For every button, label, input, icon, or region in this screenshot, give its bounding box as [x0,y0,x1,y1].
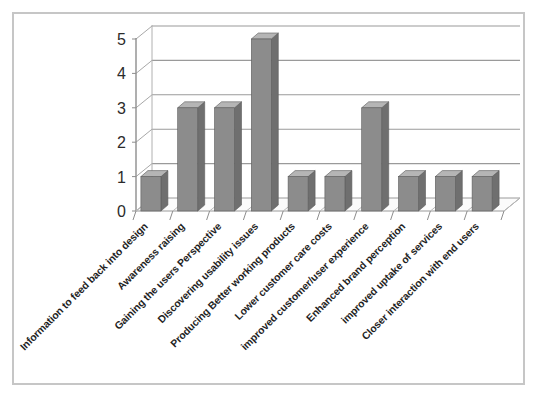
bar-column [288,171,315,211]
bar-column [178,102,205,211]
x-axis-category-label: Awareness raising [115,221,186,292]
bar-column [362,102,389,211]
bars-group [141,33,499,211]
chart-border-frame: 012345 Information to feed back into des… [12,12,525,385]
bar-column [251,33,278,211]
category-labels-group: Information to feed back into designAwar… [18,220,481,352]
bar-column [399,171,426,211]
y-axis-tick-label: 0 [117,203,126,220]
y-axis-tick-label: 4 [117,65,126,82]
bar-chart-plot: 012345 Information to feed back into des… [14,14,523,383]
y-tick-labels-group: 012345 [117,31,126,220]
bar-column [325,171,352,211]
y-axis-tick-label: 2 [117,134,126,151]
x-axis-category-label: improved customer/user experience [239,220,371,352]
y-axis-tick-label: 3 [117,100,126,117]
bar-column [472,171,499,211]
y-axis-tick-label: 5 [117,31,126,48]
chart-figure: 012345 Information to feed back into des… [0,0,538,400]
bar-column [215,102,242,211]
bar-column [435,171,462,211]
bar-column [141,171,168,211]
y-axis-tick-label: 1 [117,169,126,186]
x-axis-category-label: Information to feed back into design [18,221,150,353]
